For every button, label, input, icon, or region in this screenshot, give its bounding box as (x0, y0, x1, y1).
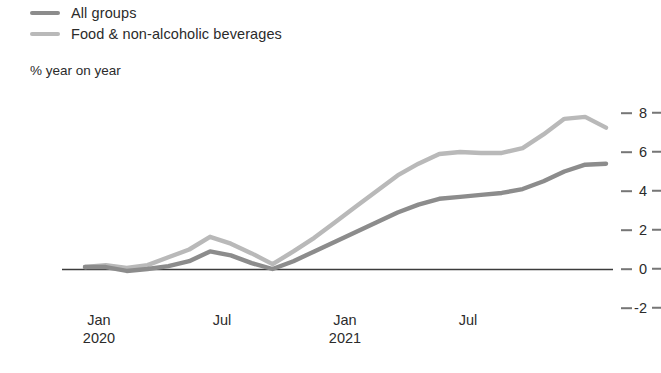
x-tick-jul-2021: Jul (459, 311, 478, 329)
x-tick-year-2: 2021 (329, 329, 361, 347)
x-tick-year-0: 2020 (83, 329, 115, 347)
x-tick-jan-2021: Jan 2021 (329, 311, 361, 347)
series-line-food-non-alcoholic (85, 117, 606, 268)
x-tick-month-0: Jan (87, 312, 110, 328)
x-tick-month-3: Jul (459, 312, 478, 328)
x-tick-jan-2020: Jan 2020 (83, 311, 115, 347)
x-tick-jul-2020: Jul (213, 311, 232, 329)
series-line-all-groups (85, 164, 606, 271)
chart-root: All groups Food & non-alcoholic beverage… (0, 0, 661, 373)
x-tick-month-1: Jul (213, 312, 232, 328)
x-tick-month-2: Jan (333, 312, 356, 328)
